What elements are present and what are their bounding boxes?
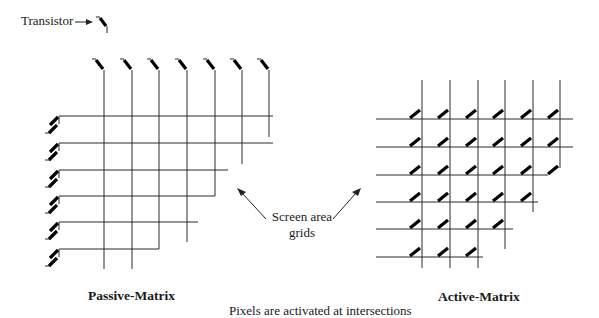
row-transistor-icon (45, 144, 58, 160)
pixel-transistor-icon (410, 110, 420, 118)
pixel-transistor-icon (438, 166, 448, 174)
pixel-transistor-icon (466, 193, 476, 201)
screen-area-label: Screen area (252, 210, 352, 223)
column-transistor-icon (257, 59, 268, 69)
pixel-transistor-icon (466, 166, 476, 174)
grids-label: grids (252, 226, 352, 239)
pixel-transistor-icon (438, 248, 448, 256)
pixel-transistor-icon (410, 248, 420, 256)
row-transistor-icon (45, 223, 58, 239)
column-transistor-icon (147, 59, 158, 69)
right-arrow-icon (75, 19, 93, 25)
pixel-transistor-icon (493, 110, 503, 118)
pixel-transistor-icon (438, 110, 448, 118)
pixel-transistor-icon (466, 220, 476, 228)
pixel-transistor-icon (410, 193, 420, 201)
active-matrix-label: Active-Matrix (438, 290, 520, 304)
pixel-transistor-icon (493, 138, 503, 146)
pixel-transistor-icon (521, 110, 531, 118)
pixel-transistor-icon (548, 166, 558, 174)
pixel-transistor-icon (466, 138, 476, 146)
row-transistor-icon (45, 250, 58, 266)
pixel-transistor-icon (548, 138, 558, 146)
transistor-symbol-icon (96, 17, 107, 33)
column-transistor-icon (92, 59, 103, 69)
active-matrix-grid (376, 80, 573, 268)
pixel-transistor-icon (438, 193, 448, 201)
row-transistor-icon (45, 197, 58, 213)
pixel-transistor-icon (438, 138, 448, 146)
column-transistor-icon (120, 59, 131, 69)
pixel-transistor-icon (493, 193, 503, 201)
column-transistor-icon (230, 59, 241, 69)
row-transistor-icon (45, 171, 58, 187)
column-transistor-icon (175, 59, 186, 69)
pixel-transistor-icon (493, 220, 503, 228)
pixel-transistor-icon (548, 110, 558, 118)
pixel-transistor-icon (466, 110, 476, 118)
passive-matrix-grid (45, 59, 273, 269)
diagram-canvas (0, 0, 599, 318)
pixel-transistor-icon (410, 138, 420, 146)
pixel-transistor-icon (410, 220, 420, 228)
pixel-transistor-icon (438, 220, 448, 228)
pixel-transistor-icon (521, 138, 531, 146)
pixel-transistor-icon (466, 248, 476, 256)
row-transistor-icon (45, 117, 58, 133)
caption: Pixels are activated at intersections (229, 304, 412, 317)
pixel-transistor-icon (521, 193, 531, 201)
pixel-transistor-icon (521, 166, 531, 174)
passive-matrix-label: Passive-Matrix (88, 289, 175, 303)
column-transistor-icon (203, 59, 214, 69)
pixel-transistor-icon (493, 166, 503, 174)
pixel-transistor-icon (410, 166, 420, 174)
